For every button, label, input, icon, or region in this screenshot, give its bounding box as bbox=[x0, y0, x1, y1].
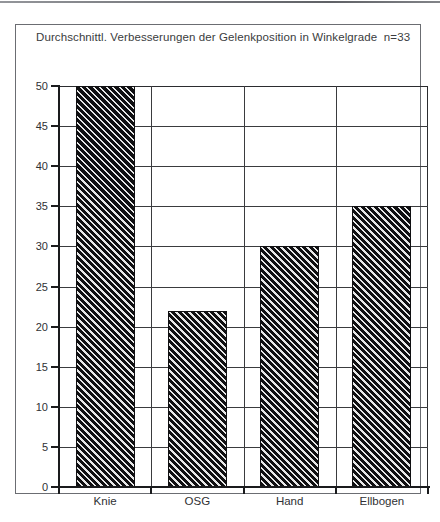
y-axis-tick bbox=[51, 446, 59, 448]
x-axis-tick bbox=[427, 486, 429, 494]
y-axis-tick bbox=[51, 85, 59, 87]
x-axis-tick bbox=[243, 486, 245, 494]
y-axis-tick-label: 15 bbox=[18, 361, 48, 373]
y-axis-tick-label: 50 bbox=[18, 80, 48, 92]
y-axis-tick-label: 30 bbox=[18, 240, 48, 252]
y-axis-tick bbox=[51, 205, 59, 207]
y-axis-tick-label: 5 bbox=[18, 441, 48, 453]
x-axis-tick bbox=[335, 486, 337, 494]
y-axis-tick-label: 35 bbox=[18, 200, 48, 212]
y-axis-tick-label: 40 bbox=[18, 160, 48, 172]
bar-ellbogen bbox=[352, 206, 411, 487]
gridline-vertical bbox=[336, 86, 337, 487]
chart-title: Durchschnittl. Verbesserungen der Gelenk… bbox=[36, 31, 410, 43]
chart-figure-frame: Durchschnittl. Verbesserungen der Gelenk… bbox=[15, 24, 421, 494]
bar-osg bbox=[168, 311, 227, 487]
y-axis-tick bbox=[51, 406, 59, 408]
gridline-vertical bbox=[244, 86, 245, 487]
y-axis-tick bbox=[51, 245, 59, 247]
y-axis-tick bbox=[51, 125, 59, 127]
bar-hand bbox=[260, 246, 319, 487]
y-axis-tick-label: 0 bbox=[18, 481, 48, 493]
x-axis-tick-label-osg: OSG bbox=[185, 495, 211, 507]
x-axis-tick bbox=[150, 486, 152, 494]
y-axis-tick-label: 20 bbox=[18, 321, 48, 333]
x-axis-tick bbox=[58, 486, 60, 494]
y-axis-tick bbox=[51, 366, 59, 368]
plot-area bbox=[59, 86, 428, 487]
y-axis-tick bbox=[51, 165, 59, 167]
x-axis-tick-label-knie: Knie bbox=[94, 495, 117, 507]
y-axis-tick-label: 10 bbox=[18, 401, 48, 413]
y-axis-tick-label: 25 bbox=[18, 281, 48, 293]
y-axis-tick bbox=[51, 326, 59, 328]
x-axis-tick-label-hand: Hand bbox=[276, 495, 304, 507]
gridline-vertical bbox=[151, 86, 152, 487]
y-axis-tick bbox=[51, 286, 59, 288]
page-scan-artifact-line bbox=[0, 1, 440, 3]
bar-knie bbox=[76, 86, 135, 487]
y-axis-tick-label: 45 bbox=[18, 120, 48, 132]
x-axis-tick-label-ellbogen: Ellbogen bbox=[359, 495, 404, 507]
